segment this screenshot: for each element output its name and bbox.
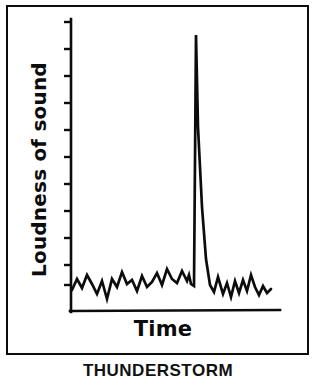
x-axis-label: Time [108,317,218,341]
plot-canvas [8,7,307,353]
figure-frame: Loudness of sound Time [6,5,309,355]
loudness-trace [72,35,271,299]
y-axis-label: Loudness of sound [27,97,51,277]
figure-caption: THUNDERSTORM [0,361,316,380]
x-axis-line [70,310,280,311]
